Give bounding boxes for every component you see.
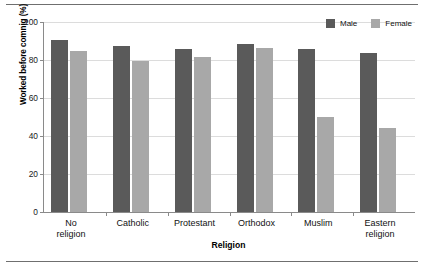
x-tick-label: Eastern religion [350,218,410,239]
bar-male [113,46,130,212]
bar-group [230,22,292,212]
x-tick-mark [168,212,169,216]
legend-label: Male [340,19,357,28]
x-tick-mark [230,212,231,216]
bar-male [175,49,192,212]
legend-entry-male: Male [326,19,357,28]
bar-female [194,57,211,212]
figure: Worked before comnig (%) 020406080100 No… [0,0,424,267]
legend-swatch-icon [326,19,335,28]
x-tick-label: Muslim [288,218,348,229]
x-axis-title: Religion [43,240,414,250]
y-tick-label: 20 [29,169,38,179]
legend-label: Female [385,19,412,28]
bar-group [291,22,353,212]
bar-group [106,22,168,212]
legend-entry-female: Female [371,19,412,28]
x-tick-mark [106,212,107,216]
bar-female [317,117,334,212]
x-tick-label: No religion [41,218,101,239]
bottom-separator-rule [6,261,418,262]
bar-male [360,53,377,212]
x-tick-mark [353,212,354,216]
legend-swatch-icon [371,19,380,28]
x-tick-label: Orthodox [226,218,286,229]
bar-female [132,61,149,212]
y-tick-mark [40,212,44,213]
bar-male [298,49,315,212]
y-tick-label: 0 [33,207,38,217]
bar-group [168,22,230,212]
bar-group [353,22,415,212]
bar-male [237,44,254,212]
y-tick-label: 60 [29,93,38,103]
bar-group [44,22,106,212]
bar-female [256,48,273,212]
plot-area: 020406080100 No religionCatholicProtesta… [43,22,415,213]
bar-female [70,51,87,213]
x-tick-label: Protestant [165,218,225,229]
bar-female [379,128,396,212]
x-tick-mark [291,212,292,216]
y-tick-label: 40 [29,131,38,141]
y-tick-label: 80 [29,55,38,65]
bar-male [51,40,68,212]
legend: MaleFemale [326,19,412,28]
x-tick-label: Catholic [103,218,163,229]
y-tick-label: 100 [24,17,38,27]
top-separator-rule [6,4,418,5]
